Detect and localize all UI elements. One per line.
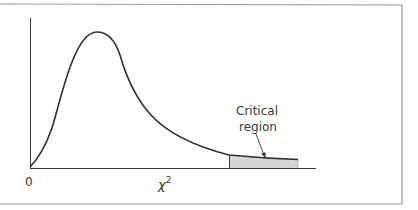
- critical-region-shading: [229, 155, 298, 168]
- chi-square-diagram: 0 χ2 Critical region: [0, 0, 418, 210]
- origin-label: 0: [25, 175, 33, 189]
- critical-region-label-line2: region: [239, 120, 277, 134]
- x-axis-label: χ2: [157, 175, 171, 192]
- chi-square-figure: 0 χ2 Critical region: [0, 0, 418, 210]
- chi-square-curve: [30, 32, 298, 167]
- critical-region-label-line1: Critical: [236, 104, 278, 118]
- figure-frame: [0, 4, 402, 204]
- annotation-arrow-line: [256, 134, 264, 155]
- x-axis-label-superscript: 2: [166, 175, 172, 185]
